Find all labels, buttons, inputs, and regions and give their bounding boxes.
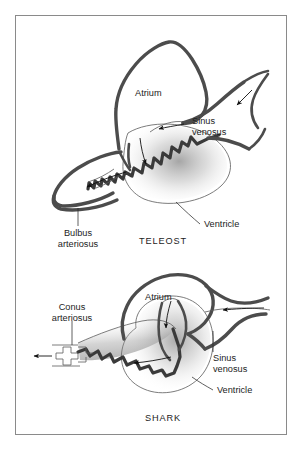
teleost-label-sinus-venosus-1: Sinus <box>192 116 215 126</box>
heart-diagram-svg: Atrium Sinus venosus Ventricle Bulbus ar… <box>16 16 286 434</box>
figure-root: Atrium Sinus venosus Ventricle Bulbus ar… <box>0 0 303 450</box>
teleost-leader-ventricle <box>176 202 200 224</box>
shark-label-sinus-venosus-2: venosus <box>213 364 248 374</box>
shark-label-atrium: Atrium <box>145 292 172 302</box>
teleost-flow-arrow-inflow <box>237 90 252 105</box>
shark-label-sinus-venosus-1: Sinus <box>213 353 236 363</box>
shark-label-conus-2: arteriosus <box>52 313 93 323</box>
shark-leader-ventricle <box>192 377 213 390</box>
teleost-label-ventricle: Ventricle <box>204 219 239 229</box>
teleost-label-bulbus-1: Bulbus <box>64 228 92 238</box>
shark-label-ventricle: Ventricle <box>217 385 252 395</box>
shark-sinus-venosus-wall-lower <box>205 314 266 349</box>
teleost-label-atrium: Atrium <box>135 88 162 98</box>
shark-sinus-venosus-wall-upper <box>206 286 268 303</box>
panel-shark: Atrium Conus arteriosus Sinus venosus Ve… <box>34 275 270 423</box>
shark-label-conus-1: Conus <box>59 302 86 312</box>
teleost-label-bulbus-2: arteriosus <box>58 239 99 249</box>
teleost-label-sinus-venosus-2: venosus <box>192 127 227 137</box>
panel-teleost: Atrium Sinus venosus Ventricle Bulbus ar… <box>53 42 268 249</box>
shark-conus-valve-row <box>56 347 78 365</box>
teleost-vein-lower <box>249 129 265 149</box>
teleost-caption: TELEOST <box>139 236 187 246</box>
teleost-vein-curved <box>252 74 268 128</box>
figure-frame: Atrium Sinus venosus Ventricle Bulbus ar… <box>15 15 287 435</box>
shark-caption: SHARK <box>145 413 181 423</box>
